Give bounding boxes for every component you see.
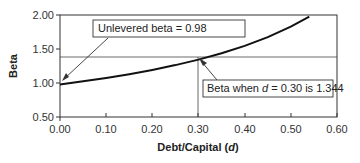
y-axis: 2.00 1.50 1.00 0.50 Beta bbox=[7, 9, 60, 123]
arrow-icon bbox=[62, 73, 69, 81]
y-tick-label: 1.50 bbox=[33, 43, 54, 55]
y-tick-label: 1.00 bbox=[33, 77, 54, 89]
x-tick-label: 0.00 bbox=[49, 123, 70, 135]
y-tick-label: 2.00 bbox=[33, 9, 54, 21]
svg-text:Beta when d = 0.30 is 1.344: Beta when d = 0.30 is 1.344 bbox=[207, 82, 344, 94]
x-tick-label: 0.20 bbox=[141, 123, 162, 135]
x-tick-label: 0.50 bbox=[280, 123, 301, 135]
x-tick-label: 0.60 bbox=[326, 123, 347, 135]
x-axis: 0.00 0.10 0.20 0.30 0.40 0.50 0.60 Debt/… bbox=[49, 113, 347, 153]
x-axis-label: Debt/Capital (d) bbox=[157, 141, 239, 153]
x-tick-label: 0.30 bbox=[187, 123, 208, 135]
y-axis-label: Beta bbox=[7, 53, 19, 78]
svg-text:Unlevered beta = 0.98: Unlevered beta = 0.98 bbox=[98, 22, 207, 34]
annotation-unlevered-beta: Unlevered beta = 0.98 bbox=[62, 20, 245, 81]
x-tick-label: 0.40 bbox=[234, 123, 255, 135]
x-tick-label: 0.10 bbox=[95, 123, 116, 135]
chart: 2.00 1.50 1.00 0.50 Beta 0.00 0.10 0.20 … bbox=[0, 0, 360, 163]
y-tick-label: 0.50 bbox=[33, 111, 54, 123]
annotation-beta-at-0.30: Beta when d = 0.30 is 1.344 bbox=[199, 58, 344, 97]
